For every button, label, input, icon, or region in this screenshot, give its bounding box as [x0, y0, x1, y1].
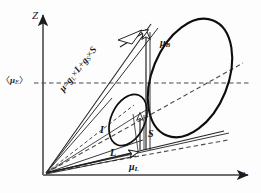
vector-diagram-figure: Z x 〈μE〉 μB μL I S L μ=gL×L+gS×S — [0, 0, 261, 193]
projection-connectors — [133, 114, 138, 151]
mean-mu-e-label: 〈μE〉 — [1, 76, 28, 86]
mu-l-subscript: L — [135, 165, 139, 173]
mu-resultant-arrowhead-group — [118, 30, 148, 47]
l-to-s-connector — [133, 114, 138, 151]
mu-b-subscript: B — [166, 41, 171, 49]
large-cone-left-generator-2 — [46, 28, 158, 173]
mu-l-label: μL — [129, 162, 139, 173]
large-cone-generators — [46, 24, 229, 173]
mean-mu-e-close-bracket: 〉 — [19, 75, 28, 85]
mean-mu-e-open-bracket: 〈 — [1, 75, 10, 85]
mu-b-label: μB — [160, 38, 170, 49]
s-vector-label: S — [148, 129, 154, 139]
large-cone-left-generator — [46, 24, 151, 173]
l-vector-label: L — [110, 148, 116, 158]
z-axis-label: Z — [32, 10, 38, 21]
x-axis-label: x — [240, 168, 245, 179]
i-vector-label: I — [100, 125, 104, 135]
